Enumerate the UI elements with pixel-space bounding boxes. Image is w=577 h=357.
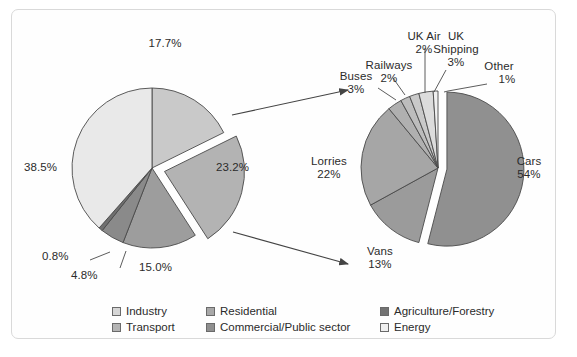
- legend-swatch-icon: [112, 323, 121, 332]
- label-railways-pct: 2%: [363, 72, 415, 85]
- label-ukshipping-name-line1: UK: [443, 30, 469, 43]
- label-residential-pct: 4.8%: [71, 269, 98, 282]
- label-other-pct: 1%: [486, 73, 528, 86]
- legend-label: Residential: [220, 305, 277, 317]
- pie-chart-transport: [361, 91, 524, 246]
- label-railways-name: Railways: [363, 59, 415, 72]
- label-ukshipping-name-line2: Shipping: [425, 43, 487, 56]
- label-transport-pct: 23.2%: [216, 161, 249, 174]
- legend-item-residential[interactable]: Residential: [206, 305, 376, 317]
- arrow-lower: [233, 232, 348, 264]
- chart-legend: IndustryResidentialAgriculture/ForestryT…: [112, 303, 464, 335]
- legend-item-transport[interactable]: Transport: [112, 321, 202, 333]
- legend-label: Commercial/Public sector: [220, 321, 350, 333]
- leader-ukshipping: [434, 70, 446, 92]
- label-ukair-name: UK Air: [400, 30, 448, 43]
- legend-swatch-icon: [380, 307, 389, 316]
- label-energy-pct: 38.5%: [24, 161, 57, 174]
- legend-label: Agriculture/Forestry: [394, 305, 494, 317]
- label-commercial-pct: 15.0%: [139, 261, 172, 274]
- label-lorries-name: Lorries: [303, 155, 355, 168]
- legend-swatch-icon: [206, 323, 215, 332]
- leader-other: [444, 84, 487, 92]
- label-other-name: Other: [478, 60, 520, 73]
- label-vans-name: Vans: [359, 245, 401, 258]
- legend-label: Industry: [126, 305, 167, 317]
- legend-item-commercial-public-sector[interactable]: Commercial/Public sector: [206, 321, 376, 333]
- label-cars-name: Cars: [505, 155, 553, 168]
- legend-item-industry[interactable]: Industry: [112, 305, 202, 317]
- chart-figure: 17.7% 38.5% 23.2% 15.0% 0.8% 4.8% Cars 5…: [0, 0, 577, 357]
- legend-item-agriculture-forestry[interactable]: Agriculture/Forestry: [380, 305, 494, 317]
- label-industry-pct: 17.7%: [135, 37, 195, 50]
- legend-swatch-icon: [380, 323, 389, 332]
- leader-agriculture: [90, 252, 110, 260]
- arrow-upper: [232, 90, 348, 115]
- legend-label: Transport: [126, 321, 175, 333]
- legend-swatch-icon: [206, 307, 215, 316]
- label-lorries-pct: 22%: [303, 168, 355, 181]
- legend-label: Energy: [394, 321, 430, 333]
- leader-lines-left: [90, 251, 126, 268]
- label-cars-pct: 54%: [505, 168, 553, 181]
- leader-buses: [378, 88, 396, 100]
- leader-residential: [120, 251, 126, 268]
- label-agriculture-pct: 0.8%: [42, 250, 69, 263]
- legend-item-energy[interactable]: Energy: [380, 321, 494, 333]
- legend-swatch-icon: [112, 307, 121, 316]
- label-vans-pct: 13%: [359, 258, 401, 271]
